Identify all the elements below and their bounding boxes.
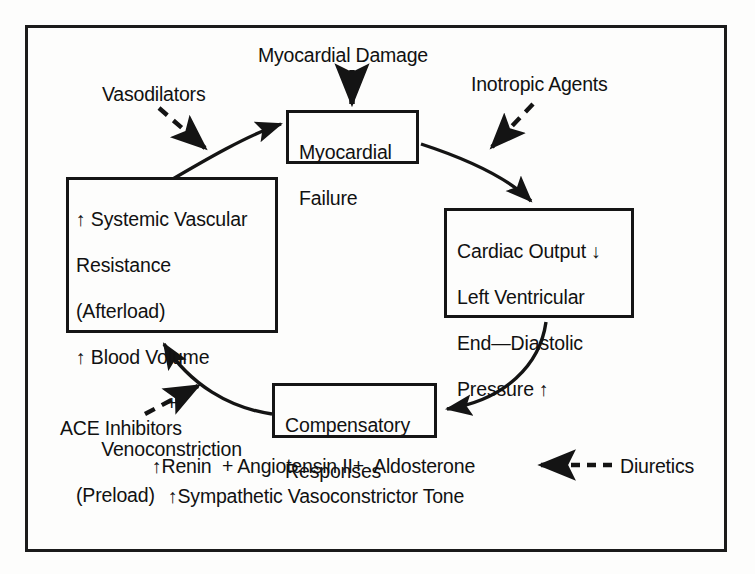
- mediator-line-sympathetic: ↑Sympathetic Vasoconstrictor Tone: [168, 485, 464, 508]
- label-myocardial-damage: Myocardial Damage: [258, 44, 428, 67]
- label-ace-inhibitors: ACE Inhibitors: [60, 417, 182, 440]
- node-cardiac-output-line-2: Left Ventricular: [457, 286, 623, 309]
- label-vasodilators: Vasodilators: [102, 83, 205, 106]
- node-cardiac-output-line-4: Pressure ↑: [457, 378, 623, 401]
- node-cardiac-output-line-1: Cardiac Output ↓: [457, 240, 623, 263]
- node-myocardial-failure-line-1: Myocardial: [299, 141, 408, 164]
- label-inotropic-agents: Inotropic Agents: [471, 73, 608, 96]
- node-myocardial-failure: Myocardial Failure: [286, 110, 419, 164]
- node-systemic-vascular-resistance: ↑ Systemic Vascular Resistance (Afterloa…: [66, 177, 278, 333]
- node-compensatory-responses: Compensatory Responses: [272, 383, 437, 438]
- node-cardiac-output: Cardiac Output ↓ Left Ventricular End—Di…: [444, 208, 634, 318]
- node-svr-line-4: ↑ Blood Volume: [76, 346, 267, 369]
- node-svr-line-2: Resistance: [76, 254, 267, 277]
- node-svr-line-3: (Afterload): [76, 300, 267, 323]
- node-svr-line-1: ↑ Systemic Vascular: [76, 208, 267, 231]
- label-diuretics: Diuretics: [620, 455, 694, 478]
- mediator-line-renin: ↑Renin + Angiotensin II+ Aldosterone: [152, 455, 475, 478]
- diagram-canvas: Myocardial Failure Cardiac Output ↓ Left…: [0, 0, 755, 574]
- node-compensatory-responses-line-1: Compensatory: [285, 414, 426, 437]
- node-cardiac-output-line-3: End—Diastolic: [457, 332, 623, 355]
- node-svr-line-5: +: [76, 392, 267, 415]
- node-myocardial-failure-line-2: Failure: [299, 187, 408, 210]
